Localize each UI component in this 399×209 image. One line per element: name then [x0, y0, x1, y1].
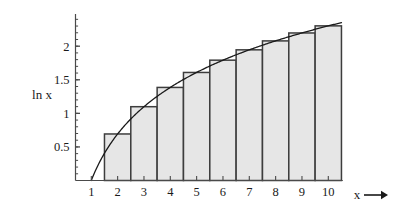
x-tick-label: 1 — [88, 185, 94, 199]
x-axis-label: x — [354, 187, 361, 202]
y-tick-label: 2 — [63, 40, 69, 54]
ln-x-riemann-sum-chart: 0.511.52 12345678910 ln x x — [0, 0, 399, 209]
x-tick-label: 3 — [141, 185, 147, 199]
y-tick-label: 0.5 — [54, 140, 70, 154]
x-tick-label: 9 — [299, 185, 305, 199]
bar-3 — [131, 107, 157, 181]
bar-6 — [210, 60, 236, 180]
bar-5 — [183, 72, 209, 180]
y-tick-label: 1.5 — [54, 73, 70, 87]
bar-2 — [104, 134, 130, 181]
x-tick-label: 5 — [194, 185, 200, 199]
chart-canvas: 0.511.52 12345678910 ln x x — [0, 0, 399, 209]
bar-9 — [289, 33, 315, 181]
x-tick-label: 8 — [273, 185, 279, 199]
x-tick-label: 10 — [322, 185, 335, 199]
bar-7 — [236, 50, 262, 181]
bar-8 — [262, 41, 288, 181]
x-tick-label: 7 — [246, 185, 252, 199]
x-tick-label: 2 — [115, 185, 121, 199]
x-tick-label: 6 — [220, 185, 226, 199]
bar-4 — [157, 87, 183, 180]
bar-10 — [315, 26, 341, 181]
x-tick-label: 4 — [167, 185, 174, 199]
y-axis-label: ln x — [32, 87, 52, 102]
y-tick-label: 1 — [63, 107, 69, 121]
